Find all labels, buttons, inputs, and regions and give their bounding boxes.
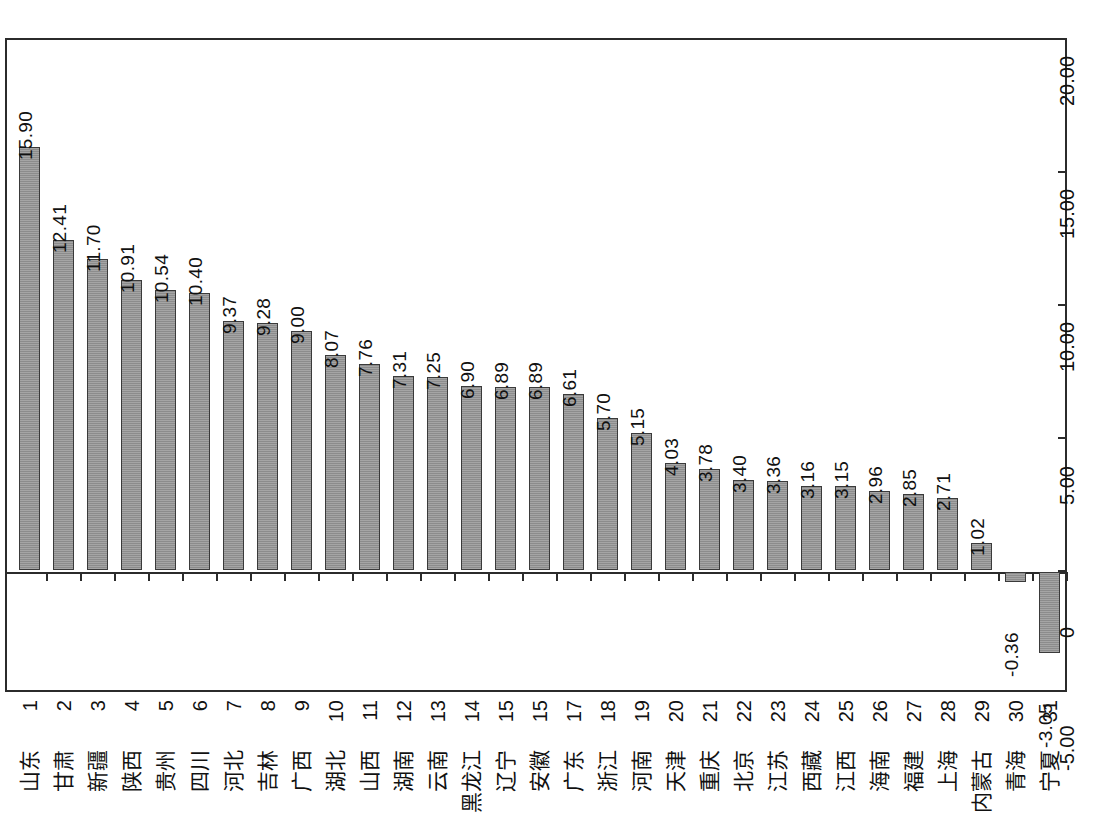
bar-value-label: 6.89 (526, 362, 545, 400)
y-axis-tick (1058, 437, 1067, 439)
rank-label: 13 (428, 700, 448, 722)
category-label: 新疆 (87, 750, 109, 792)
bar[interactable] (1005, 572, 1026, 582)
category-label: 河北 (223, 750, 245, 792)
bar[interactable] (257, 323, 278, 570)
rank-label: 23 (768, 700, 788, 722)
bar[interactable] (665, 463, 686, 570)
x-axis-label-group: 31宁夏 (1033, 694, 1067, 826)
x-axis-label-group: 2甘肃 (47, 694, 81, 826)
bar[interactable] (733, 480, 754, 570)
x-axis-label-group: 15安徽 (523, 694, 557, 826)
bar[interactable] (223, 321, 244, 570)
category-label: 吉林 (257, 750, 279, 792)
bar-slot (931, 38, 965, 692)
category-label: 上海 (937, 750, 959, 792)
bar-value-label: 9.00 (288, 305, 307, 343)
bar[interactable] (767, 481, 788, 570)
bar[interactable] (461, 386, 482, 570)
x-axis-label-group: 3新疆 (81, 694, 115, 826)
y-axis-tick (1058, 304, 1067, 306)
rank-label: 2 (54, 700, 74, 711)
bar-slot (829, 38, 863, 692)
bar-value-label: 10.91 (118, 244, 137, 293)
rank-label: 10 (326, 700, 346, 722)
bar[interactable] (1039, 572, 1060, 653)
bar[interactable] (699, 469, 720, 570)
bar[interactable] (53, 240, 74, 570)
bar[interactable] (631, 433, 652, 570)
rank-label: 21 (700, 700, 720, 722)
bar-slot (47, 38, 81, 692)
rank-label: 1 (20, 700, 40, 711)
rank-label: 7 (224, 700, 244, 711)
bar[interactable] (495, 387, 516, 570)
x-axis-label-group: 18浙江 (591, 694, 625, 826)
bar[interactable] (155, 290, 176, 570)
bar-slot (965, 38, 999, 692)
x-axis-label-group: 4陕西 (115, 694, 149, 826)
x-axis-label-group: 13云南 (421, 694, 455, 826)
bar[interactable] (359, 364, 380, 570)
bar-slot (659, 38, 693, 692)
bar-value-label: 7.31 (390, 350, 409, 388)
rank-label: 31 (1040, 700, 1060, 722)
rank-label: 22 (734, 700, 754, 722)
y-axis: 20.0015.0010.005.000-5.00 (1067, 0, 1104, 826)
x-axis-label-group: 20天津 (659, 694, 693, 826)
category-label: 湖南 (393, 750, 415, 792)
category-label: 河南 (631, 750, 653, 792)
rank-label: 6 (190, 700, 210, 711)
x-axis-label-group: 21重庆 (693, 694, 727, 826)
bar[interactable] (291, 331, 312, 570)
x-axis-label-group: 17广东 (557, 694, 591, 826)
bar-slot (149, 38, 183, 692)
category-label: 辽宁 (495, 750, 517, 792)
bar[interactable] (87, 259, 108, 570)
bar-value-label: 3.36 (764, 455, 783, 493)
bar[interactable] (19, 147, 40, 570)
x-axis-label-group: 1山东 (13, 694, 47, 826)
category-label: 江西 (835, 750, 857, 792)
category-label: 贵州 (155, 750, 177, 792)
x-axis-label-group: 10湖北 (319, 694, 353, 826)
bar[interactable] (529, 387, 550, 570)
bar-slot (251, 38, 285, 692)
bar[interactable] (393, 376, 414, 570)
category-label: 福建 (903, 750, 925, 792)
y-axis-tick-label: 10.00 (1057, 322, 1077, 372)
bar[interactable] (563, 394, 584, 570)
x-axis-label-group: 14黑龙江 (455, 694, 489, 826)
bar-value-label: 11.70 (84, 224, 103, 272)
bar[interactable] (597, 418, 618, 570)
rank-label: 24 (802, 700, 822, 722)
x-axis-label-group: 25江西 (829, 694, 863, 826)
x-axis-label-group: 27福建 (897, 694, 931, 826)
category-label: 海南 (869, 750, 891, 792)
bar[interactable] (189, 293, 210, 570)
bar-value-label: 2.96 (866, 466, 885, 504)
chart-page: 15.9012.4111.7010.9110.5410.409.379.289.… (0, 0, 1104, 826)
rank-label: 18 (598, 700, 618, 722)
y-axis-tick-label: 15.00 (1057, 189, 1077, 239)
rank-label: 12 (394, 700, 414, 722)
x-axis-label-group: 19河南 (625, 694, 659, 826)
x-axis-label-group: 5贵州 (149, 694, 183, 826)
rank-label: 14 (462, 700, 482, 722)
rank-label: 9 (292, 700, 312, 711)
bar-value-label: 10.40 (186, 257, 205, 306)
bar[interactable] (427, 377, 448, 570)
bar[interactable] (121, 280, 142, 570)
bar[interactable] (325, 355, 346, 570)
category-label: 陕西 (121, 750, 143, 792)
rank-label: 17 (564, 700, 584, 722)
bar-value-label: 1.02 (968, 518, 987, 556)
category-label: 天津 (665, 750, 687, 792)
x-axis-label-group: 9广西 (285, 694, 319, 826)
x-axis-label-group: 15辽宁 (489, 694, 523, 826)
bar-value-label: 6.61 (560, 369, 579, 407)
y-axis-tick (1058, 171, 1067, 173)
bar-value-label: 5.15 (628, 408, 647, 446)
category-label: 广东 (563, 750, 585, 792)
category-label: 内蒙古 (971, 750, 993, 813)
